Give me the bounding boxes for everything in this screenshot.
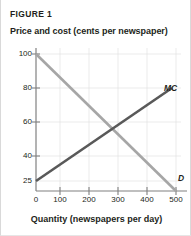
- gridlines: [36, 48, 181, 191]
- demand-curve: [36, 54, 176, 191]
- xtick-label-500: 500: [169, 196, 182, 204]
- x-axis-title: Quantity (newspapers per day): [1, 214, 191, 224]
- xtick-label-0: 0: [34, 196, 38, 204]
- x-tick-labels: 0 100 200 300 400 500: [1, 196, 191, 206]
- ytick-label-25: 25: [23, 177, 32, 185]
- xtick-label-200: 200: [82, 196, 95, 204]
- ytick-label-40: 40: [23, 152, 32, 160]
- demand-curve-label: D: [178, 174, 184, 183]
- ytick-label-100: 100: [19, 50, 32, 58]
- xtick-label-400: 400: [140, 196, 153, 204]
- xtick-label-100: 100: [53, 196, 66, 204]
- axis-lines: [36, 48, 187, 191]
- ytick-label-60: 60: [23, 118, 32, 126]
- marginal-cost-curve-label: MC: [164, 84, 177, 93]
- xtick-label-300: 300: [111, 196, 124, 204]
- figure-container: FIGURE 1 Price and cost (cents per newsp…: [0, 0, 191, 236]
- ytick-label-80: 80: [23, 84, 32, 92]
